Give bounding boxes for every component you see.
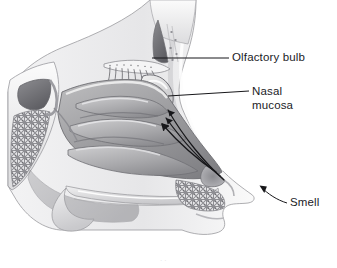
nasal-cavity-illustration	[0, 0, 337, 268]
caption-stub: · ·	[160, 257, 167, 264]
label-nasal-mucosa: Nasalmucosa	[252, 85, 293, 112]
anatomical-figure: Olfactory bulb Nasalmucosa Smell · ·	[0, 0, 337, 268]
label-nasal-mucosa-line2: mucosa	[252, 99, 293, 111]
label-smell: Smell	[290, 196, 320, 210]
leader-line-nasal-mucosa	[168, 91, 249, 96]
label-olfactory-bulb: Olfactory bulb	[232, 51, 305, 65]
label-nasal-mucosa-line1: Nasal	[252, 85, 282, 97]
